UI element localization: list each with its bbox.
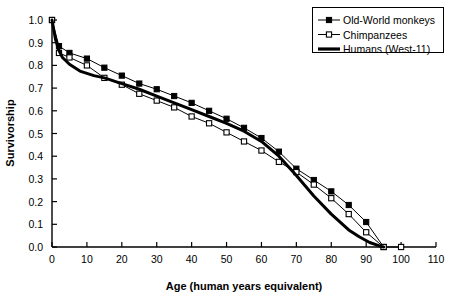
legend-label: Humans (West-11) <box>343 43 430 55</box>
data-point-marker <box>259 148 264 153</box>
legend-label: Old-World monkeys <box>343 14 435 26</box>
data-point-marker <box>172 105 177 110</box>
data-point-marker <box>84 56 89 61</box>
data-point-marker <box>311 182 316 187</box>
data-point-marker <box>329 189 334 194</box>
survivorship-chart-figure: 01020304050607080901001100.00.10.20.30.4… <box>0 0 453 298</box>
data-point-marker <box>206 108 211 113</box>
y-tick-label: 0.5 <box>28 128 43 140</box>
y-tick-label: 1.0 <box>28 14 43 26</box>
survivorship-chart: 01020304050607080901001100.00.10.20.30.4… <box>0 0 453 298</box>
data-point-marker <box>346 202 351 207</box>
x-tick-label: 0 <box>49 253 55 265</box>
x-tick-label: 70 <box>291 253 303 265</box>
y-tick-label: 0.3 <box>28 173 43 185</box>
x-tick-label: 50 <box>221 253 233 265</box>
x-tick-label: 30 <box>151 253 163 265</box>
data-point-marker <box>154 98 159 103</box>
data-point-marker <box>224 130 229 135</box>
chart-legend: Old-World monkeysChimpanzeesHumans (West… <box>313 8 444 56</box>
data-point-marker <box>346 211 351 216</box>
y-tick-label: 0.8 <box>28 59 43 71</box>
x-tick-label: 20 <box>116 253 128 265</box>
x-tick-label: 100 <box>392 253 410 265</box>
x-tick-label: 60 <box>256 253 268 265</box>
y-tick-label: 0.0 <box>28 241 43 253</box>
data-point-marker <box>329 196 334 201</box>
data-point-marker <box>137 81 142 86</box>
x-tick-label: 10 <box>81 253 93 265</box>
y-tick-label: 0.2 <box>28 196 43 208</box>
y-axis-label: Survivorship <box>4 99 16 167</box>
y-tick-label: 0.1 <box>28 218 43 230</box>
data-point-marker <box>326 32 331 37</box>
data-point-marker <box>137 91 142 96</box>
data-point-marker <box>364 230 369 235</box>
data-point-marker <box>189 114 194 119</box>
data-point-marker <box>206 121 211 126</box>
x-tick-label: 80 <box>325 253 337 265</box>
x-tick-label: 110 <box>428 253 445 265</box>
data-point-marker <box>241 139 246 144</box>
data-point-marker <box>154 87 159 92</box>
data-point-marker <box>364 219 369 224</box>
data-point-marker <box>84 63 89 68</box>
data-point-marker <box>172 93 177 98</box>
y-tick-label: 0.7 <box>28 82 43 94</box>
legend-label: Chimpanzees <box>343 29 407 41</box>
y-tick-label: 0.9 <box>28 37 43 49</box>
data-point-marker <box>102 65 107 70</box>
x-axis-label: Age (human years equivalent) <box>166 280 323 292</box>
x-tick-label: 90 <box>360 253 372 265</box>
data-point-marker <box>119 73 124 78</box>
data-point-marker <box>398 244 403 249</box>
y-tick-label: 0.6 <box>28 105 43 117</box>
data-point-marker <box>67 55 72 60</box>
data-point-marker <box>189 100 194 105</box>
data-point-marker <box>224 116 229 121</box>
data-point-marker <box>326 17 331 22</box>
y-tick-label: 0.4 <box>28 150 43 162</box>
x-tick-label: 40 <box>186 253 198 265</box>
